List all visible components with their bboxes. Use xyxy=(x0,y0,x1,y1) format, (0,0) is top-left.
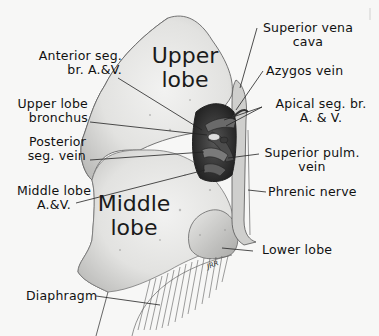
anterior-seg-line2: br. A.&V. xyxy=(30,63,122,77)
lower-lobe-line1: Lower lobe xyxy=(262,243,332,257)
anterior-seg-line1: Anterior seg. xyxy=(30,49,122,63)
superior-pulm-vein-line2: vein xyxy=(256,160,368,174)
label-middle-lobe-av: Middle lobe A.&V. xyxy=(12,184,96,212)
middle-lobe-av-line2: A.&V. xyxy=(12,198,96,212)
azygos-vein-line1: Azygos vein xyxy=(266,64,343,78)
upper-lobe-line2: lobe xyxy=(150,68,220,92)
upper-lobe-label: Upper lobe xyxy=(150,44,220,92)
superior-pulm-vein-line1: Superior pulm. xyxy=(256,146,368,160)
label-phrenic-nerve: Phrenic nerve xyxy=(268,185,357,199)
upper-lobe-line1: Upper xyxy=(150,44,220,68)
apical-seg-line1: Apical seg. br. xyxy=(264,97,378,111)
label-diaphragm: Diaphragm xyxy=(26,289,97,303)
superior-vena-cava-line1: Superior vena xyxy=(250,21,366,35)
label-anterior-seg: Anterior seg. br. A.&V. xyxy=(30,49,122,77)
diaphragm-line1: Diaphragm xyxy=(26,289,97,303)
middle-lobe-line1: Middle xyxy=(96,192,172,216)
posterior-seg-vein-line2: seg. vein xyxy=(6,149,86,163)
label-upper-lobe-bronchus: Upper lobe bronchus xyxy=(8,97,88,125)
upper-lobe-bronchus-line2: bronchus xyxy=(8,111,88,125)
anatomy-illustration: Upper lobe Middle lobe Anterior seg. br.… xyxy=(0,0,379,336)
label-posterior-seg-vein: Posterior seg. vein xyxy=(6,135,86,163)
label-azygos-vein: Azygos vein xyxy=(266,64,343,78)
apical-seg-line2: A. & V. xyxy=(264,111,378,125)
middle-lobe-label: Middle lobe xyxy=(96,192,172,240)
superior-vena-cava-line2: cava xyxy=(250,35,366,49)
label-superior-vena-cava: Superior vena cava xyxy=(250,21,366,49)
label-superior-pulm-vein: Superior pulm. vein xyxy=(256,146,368,174)
label-lower-lobe: Lower lobe xyxy=(262,243,332,257)
superior-vena-cava-shape xyxy=(232,80,256,245)
label-apical-seg: Apical seg. br. A. & V. xyxy=(264,97,378,125)
middle-lobe-av-line1: Middle lobe xyxy=(12,184,96,198)
upper-lobe-bronchus-line1: Upper lobe xyxy=(8,97,88,111)
posterior-seg-vein-line1: Posterior xyxy=(6,135,86,149)
middle-lobe-line2: lobe xyxy=(96,216,172,240)
phrenic-nerve-line1: Phrenic nerve xyxy=(268,185,357,199)
